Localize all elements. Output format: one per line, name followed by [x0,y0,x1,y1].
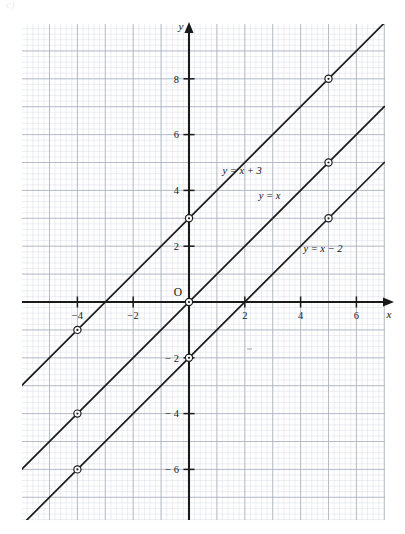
x-tick-label: 2 [242,310,247,321]
y-tick-label: − 4 [165,408,180,419]
x-tick-label: 6 [354,310,359,321]
x-tick-label: −4 [72,310,84,321]
data-point-marker [185,298,192,305]
graph-figure: c) −4−2246− 6− 4− 22468 y = x + 3y = xy … [0,0,405,534]
data-point-marker [325,159,332,166]
data-point-marker [325,75,332,82]
line-label-2: y = x [258,190,281,201]
data-point-marker [325,215,332,222]
cartesian-graph: −4−2246− 6− 4− 22468 y = x + 3y = xy = x… [0,0,405,534]
x-tick-label: 4 [298,310,304,321]
x-tick-label: −2 [128,310,139,321]
stray-pencil-mark [247,348,252,350]
data-point-marker [185,215,192,222]
line-label-1: y = x + 3 [221,165,261,176]
y-tick-label: 4 [174,185,180,196]
y-tick-label: − 2 [165,353,179,364]
data-point-marker [74,410,81,417]
plot-background [22,24,385,520]
y-tick-label: 8 [174,74,179,85]
x-axis-label: x [386,308,392,320]
y-axis-label: y [178,20,184,32]
y-tick-label: 2 [174,241,179,252]
line-label-3: y = x − 2 [302,243,343,254]
data-point-marker [74,326,81,333]
y-tick-label: 6 [174,129,179,140]
origin-label: O [174,286,182,298]
data-point-marker [74,466,81,473]
data-point-marker [185,354,192,361]
y-tick-label: − 6 [165,464,179,475]
